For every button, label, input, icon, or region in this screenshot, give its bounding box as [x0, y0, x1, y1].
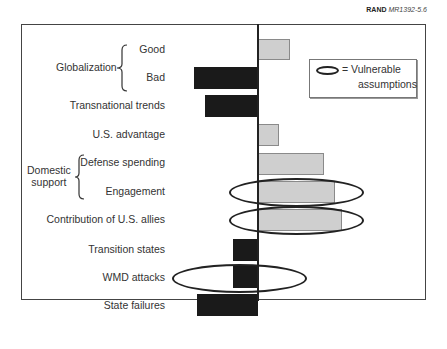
group-label-globalization: Globalization [56, 61, 117, 73]
credit-id: MR1392-5.6 [388, 6, 427, 13]
vulnerable-ellipse-wmd [172, 264, 307, 293]
label-state-failures: State failures [104, 299, 165, 311]
figure-credit: RAND MR1392-5.6 [366, 6, 427, 13]
label-bad: Bad [146, 71, 165, 83]
bar-good [258, 39, 290, 60]
label-transnational-trends: Transnational trends [70, 99, 165, 111]
label-good: Good [139, 43, 165, 55]
group-label-support: support [27, 176, 71, 188]
vulnerable-ellipse-engagement [229, 178, 364, 207]
vulnerable-ellipse-contribution [229, 206, 364, 235]
group-label-domestic-support: Domestic support [27, 164, 71, 188]
bar-transnational-trends [205, 95, 258, 117]
legend-text-line2: assumptions [358, 78, 417, 90]
brace-domestic-support-icon [74, 154, 86, 200]
label-engagement: Engagement [105, 185, 165, 197]
label-contribution-us-allies: Contribution of U.S. allies [47, 213, 165, 225]
group-label-domestic: Domestic [27, 164, 71, 176]
legend-text-line1: = Vulnerable [342, 63, 401, 75]
label-defense-spending: Defense spending [80, 156, 165, 168]
label-wmd-attacks: WMD attacks [103, 271, 165, 283]
bar-us-advantage [258, 124, 279, 146]
brace-globalization-icon [116, 44, 130, 92]
ellipse-swatch-icon [316, 66, 339, 75]
credit-org: RAND [366, 6, 386, 13]
bar-defense-spending [258, 153, 324, 175]
bar-bad [194, 67, 258, 89]
zero-axis [257, 24, 259, 301]
label-transition-states: Transition states [88, 243, 165, 255]
bar-transition-states [233, 239, 258, 261]
bar-state-failures-visible [197, 294, 258, 316]
legend-box: = Vulnerable assumptions [309, 59, 417, 98]
label-us-advantage: U.S. advantage [93, 128, 165, 140]
